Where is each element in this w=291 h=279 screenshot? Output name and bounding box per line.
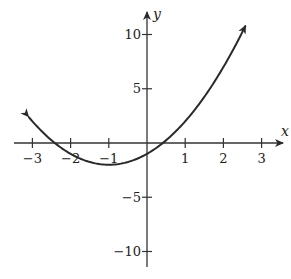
x-tick-label: 2 [219,151,227,166]
x-tick-label: −3 [23,151,42,166]
y-tick-label: −5 [122,190,141,205]
x-axis-label: x [281,123,289,139]
axes [14,12,283,267]
x-tick-label: 3 [257,151,265,166]
x-tick-label: 1 [181,151,189,166]
parabola-chart: −3−2−1123105−5−10 x y [0,0,291,279]
y-tick-label: −10 [114,244,141,259]
y-axis-label: y [152,6,162,22]
y-tick-label: 10 [124,27,141,42]
y-tick-label: 5 [133,81,141,96]
